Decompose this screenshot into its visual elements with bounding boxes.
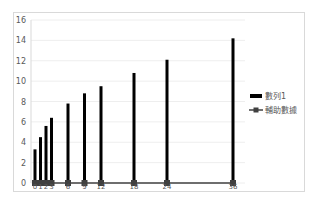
y-tick-label: 12	[16, 57, 26, 66]
y-axis-ticks: 0246810121416	[16, 16, 26, 188]
y-tick-label: 2	[21, 159, 26, 168]
x-tick-label: 6	[66, 183, 71, 191]
bar-series	[34, 38, 235, 183]
y-tick-label: 16	[16, 16, 26, 25]
y-tick-label: 6	[21, 118, 26, 127]
x-tick-label: 0	[33, 183, 37, 191]
bar	[50, 118, 53, 183]
x-tick-label: 18	[130, 183, 139, 191]
x-axis-ticks: 01236912182436	[33, 183, 238, 191]
bar	[100, 86, 103, 183]
y-tick-label: 10	[16, 77, 26, 86]
legend-marker-icon	[254, 108, 259, 113]
x-tick-label: 2	[44, 183, 48, 191]
bar	[83, 93, 86, 183]
x-tick-label: 9	[82, 183, 86, 191]
x-tick-label: 1	[38, 183, 42, 191]
bar	[133, 73, 136, 183]
gridlines	[31, 20, 245, 183]
legend-label-series1: 數列1	[265, 91, 286, 101]
bar	[232, 38, 235, 183]
y-tick-label: 4	[21, 138, 26, 147]
bar	[34, 149, 37, 183]
legend-label-auxiliary: 輔助數據	[265, 105, 297, 115]
x-tick-label: 36	[229, 183, 238, 191]
chart-svg: 0246810121416 01236912182436 數列1 輔助數據	[0, 0, 317, 208]
x-tick-label: 3	[49, 183, 53, 191]
legend: 數列1 輔助數據	[249, 91, 297, 115]
bar	[39, 137, 42, 183]
y-tick-label: 8	[21, 98, 26, 107]
x-tick-label: 24	[163, 183, 172, 191]
bar	[166, 60, 169, 183]
legend-bar-swatch-icon	[250, 94, 262, 98]
bar	[45, 126, 48, 183]
y-tick-label: 0	[21, 179, 26, 188]
y-tick-label: 14	[16, 36, 26, 45]
x-tick-label: 12	[97, 183, 106, 191]
bar	[67, 104, 70, 183]
